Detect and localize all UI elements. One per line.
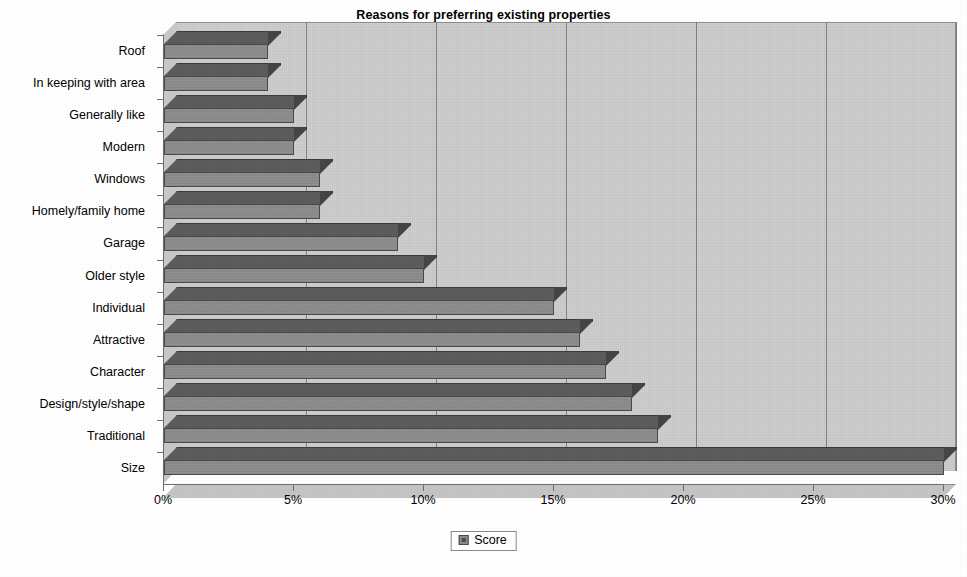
y-axis-tick — [157, 99, 163, 100]
bar-top-face — [164, 127, 294, 140]
y-axis-tick — [157, 260, 163, 261]
bar-side-face — [554, 287, 567, 315]
y-axis-tick — [157, 388, 163, 389]
bar — [164, 428, 658, 443]
x-axis-tick — [683, 484, 684, 491]
bar — [164, 332, 580, 347]
square-swatch-icon — [458, 535, 468, 545]
bar — [164, 44, 268, 59]
bar-side-face — [268, 31, 281, 59]
bar — [164, 204, 320, 219]
bar-top-face — [164, 351, 606, 364]
y-axis-tick — [157, 356, 163, 357]
x-axis-tick — [943, 484, 944, 491]
bar-front-face — [164, 268, 424, 283]
y-axis-tick — [157, 452, 163, 453]
y-axis-category-label: Homely/family home — [32, 204, 145, 218]
y-axis-category-label: Older style — [85, 269, 145, 283]
bar-side-face — [268, 63, 281, 91]
y-axis-category-label: Character — [90, 365, 145, 379]
gridline — [826, 22, 827, 471]
y-axis-category-label: In keeping with area — [33, 76, 145, 90]
bar-side-face — [944, 447, 957, 475]
y-axis-tick — [157, 131, 163, 132]
y-axis-tick — [157, 163, 163, 164]
bar-chart: Reasons for preferring existing properti… — [0, 0, 967, 577]
gridline — [956, 22, 957, 471]
y-axis-tick — [157, 420, 163, 421]
bar-top-face — [164, 383, 632, 396]
bar-front-face — [164, 172, 320, 187]
x-axis-tick — [553, 484, 554, 491]
bar-side-face — [632, 383, 645, 411]
bar-front-face — [164, 44, 268, 59]
bar-top-face — [164, 319, 580, 332]
bar — [164, 396, 632, 411]
chart-title: Reasons for preferring existing properti… — [0, 8, 967, 22]
bar-front-face — [164, 396, 632, 411]
bar-side-face — [398, 223, 411, 251]
y-axis-labels: SizeTraditionalDesign/style/shapeCharact… — [0, 35, 155, 484]
bar-top-face — [164, 159, 320, 172]
y-axis-tick — [157, 35, 163, 36]
bar-side-face — [606, 351, 619, 379]
y-axis-tick — [157, 292, 163, 293]
bar-front-face — [164, 108, 294, 123]
bar-side-face — [294, 127, 307, 155]
bar — [164, 108, 294, 123]
bar-top-face — [164, 287, 554, 300]
bar-front-face — [164, 204, 320, 219]
y-axis-line — [163, 35, 164, 484]
y-axis-category-label: Traditional — [87, 429, 145, 443]
x-axis-tick-label: 5% — [284, 493, 302, 507]
y-axis-category-label: Size — [121, 461, 145, 475]
bar-top-face — [164, 31, 268, 44]
bar — [164, 76, 268, 91]
bar-front-face — [164, 236, 398, 251]
bar-front-face — [164, 76, 268, 91]
bar-front-face — [164, 140, 294, 155]
gridline — [696, 22, 697, 471]
x-axis-tick-label: 20% — [670, 493, 695, 507]
bar-top-face — [164, 415, 658, 428]
x-axis-tick-label: 10% — [410, 493, 435, 507]
y-axis-category-label: Individual — [92, 301, 145, 315]
bar-top-face — [164, 447, 944, 460]
bar-top-face — [164, 191, 320, 204]
y-axis-category-label: Windows — [94, 172, 145, 186]
bar-front-face — [164, 300, 554, 315]
bar — [164, 172, 320, 187]
x-axis-tick — [813, 484, 814, 491]
x-axis-tick — [293, 484, 294, 491]
bar — [164, 460, 944, 475]
bar-side-face — [580, 319, 593, 347]
y-axis-tick — [157, 227, 163, 228]
bar-front-face — [164, 428, 658, 443]
x-axis-tick-label: 30% — [930, 493, 955, 507]
y-axis-category-label: Generally like — [69, 108, 145, 122]
x-axis-tick — [163, 484, 164, 491]
y-axis-category-label: Design/style/shape — [39, 397, 145, 411]
y-axis-tick — [157, 195, 163, 196]
y-axis-category-label: Attractive — [93, 333, 145, 347]
bar-side-face — [320, 191, 333, 219]
bar-top-face — [164, 95, 294, 108]
bar — [164, 364, 606, 379]
bar-front-face — [164, 332, 580, 347]
plot-area: 0%5%10%15%20%25%30% — [163, 35, 943, 484]
legend-entry-label: Score — [474, 534, 507, 547]
bar-side-face — [658, 415, 671, 443]
x-axis-tick — [423, 484, 424, 491]
x-axis-tick-label: 0% — [154, 493, 172, 507]
bar-top-face — [164, 63, 268, 76]
y-axis-category-label: Garage — [103, 236, 145, 250]
bar — [164, 236, 398, 251]
bar-side-face — [424, 255, 437, 283]
bar — [164, 140, 294, 155]
bar-top-face — [164, 223, 398, 236]
y-axis-category-label: Modern — [103, 140, 145, 154]
bar-side-face — [294, 95, 307, 123]
y-axis-category-label: Roof — [119, 44, 145, 58]
y-axis-tick — [157, 67, 163, 68]
bar-front-face — [164, 460, 944, 475]
